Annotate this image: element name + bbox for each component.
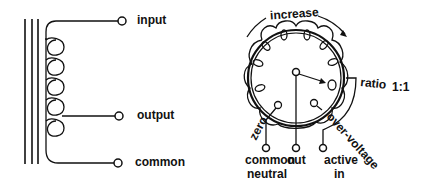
active-in-terminal — [320, 145, 327, 152]
increase-label: increase — [270, 5, 320, 22]
common-neutral-terminal — [263, 145, 270, 152]
wiper-pivot — [293, 69, 300, 76]
variac-diagram: increase ratio 1:1 — [244, 5, 409, 181]
out-label: out — [287, 153, 306, 167]
neutral-label: neutral — [247, 167, 287, 181]
iron-core-icon — [25, 19, 38, 164]
input-label: input — [137, 13, 166, 27]
output-label: output — [137, 108, 174, 122]
increase-arc-left — [247, 18, 266, 37]
coil-winding-icon — [46, 21, 118, 163]
input-terminal — [118, 17, 126, 25]
in-label: in — [334, 167, 345, 181]
out-terminal — [293, 145, 300, 152]
diagram-canvas: input output common increase — [0, 0, 431, 184]
ratio-label: ratio — [360, 75, 387, 92]
wiper-arrow-icon — [319, 78, 326, 84]
common-label: common — [135, 155, 185, 169]
autotransformer-schematic: input output common — [25, 13, 185, 169]
output-terminal — [115, 112, 123, 120]
common-terminal — [114, 159, 122, 167]
arrowhead-icon — [340, 30, 347, 37]
active-label: active — [324, 153, 358, 167]
ratio-value: 1:1 — [392, 80, 410, 94]
